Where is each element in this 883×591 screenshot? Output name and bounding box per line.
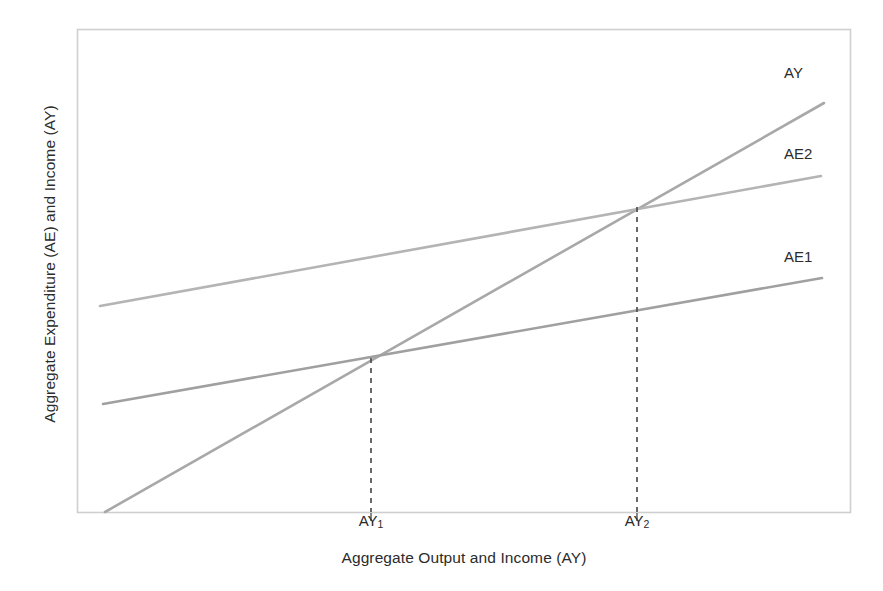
chart-figure: Aggregate Expenditure (AE) and Income (A… — [0, 0, 883, 591]
curve-label-ae1: AE1 — [784, 248, 812, 265]
tick-label-ay1: AY1 — [359, 512, 384, 529]
tick-label-ay1-base: AY — [359, 512, 378, 529]
plot-frame — [78, 30, 851, 513]
chart-canvas — [0, 0, 883, 591]
tick-label-ay1-sub: 1 — [378, 518, 384, 530]
x-axis-title: Aggregate Output and Income (AY) — [77, 549, 851, 567]
curve-label-ay: AY — [784, 64, 803, 81]
tick-label-ay2: AY2 — [625, 512, 650, 529]
tick-label-ay2-sub: 2 — [644, 518, 650, 530]
tick-label-ay2-base: AY — [625, 512, 644, 529]
curve-label-ae2: AE2 — [784, 145, 812, 162]
y-axis-title: Aggregate Expenditure (AE) and Income (A… — [41, 14, 59, 514]
